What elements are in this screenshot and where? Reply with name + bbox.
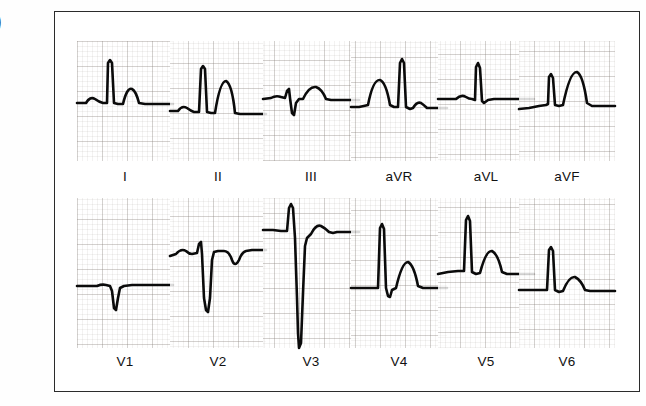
ecg-trace-v1 [77,198,173,348]
lead-label-v2: V2 [170,354,266,369]
lead-label-v4: V4 [351,354,447,369]
ecg-trace-v3 [263,198,359,348]
edge-glyph: ) [0,8,2,34]
lead-label-avr: aVR [351,169,447,184]
ecg-trace-v6 [519,198,615,348]
lead-label-v1: V1 [77,354,173,369]
ecg-trace-v2 [170,198,266,348]
lead-panel-v2 [170,198,266,348]
ecg-trace-avr [351,41,447,161]
figure-frame: IIIIIIaVRaVLaVFV1V2V3V4V5V6 [54,11,640,392]
lead-panel-i [77,41,173,161]
lead-label-ii: II [170,169,266,184]
lead-panel-avr [351,41,447,161]
lead-panel-v4 [351,198,447,348]
ecg-figure: ) IIIIIIaVRaVLaVFV1V2V3V4V5V6 [0,0,646,406]
ecg-trace-avf [519,41,615,161]
ecg-trace-v4 [351,198,447,348]
lead-label-v3: V3 [263,354,359,369]
lead-panel-v1 [77,198,173,348]
lead-label-v6: V6 [519,354,615,369]
lead-label-i: I [77,169,173,184]
lead-panel-avf [519,41,615,161]
lead-panel-v3 [263,198,359,348]
lead-label-iii: III [263,169,359,184]
ecg-trace-iii [263,41,359,161]
lead-panel-ii [170,41,266,161]
lead-label-avf: aVF [519,169,615,184]
lead-panel-iii [263,41,359,161]
lead-panel-v6 [519,198,615,348]
ecg-trace-i [77,41,173,161]
ecg-trace-ii [170,41,266,161]
